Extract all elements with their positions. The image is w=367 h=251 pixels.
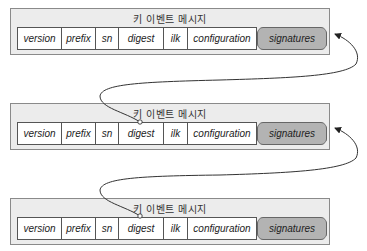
field-ilk: ilk	[164, 27, 188, 50]
field-digest: digest	[119, 122, 164, 145]
field-version: version	[17, 27, 62, 50]
field-version: version	[17, 122, 62, 145]
message-title: 키 이벤트 메시지	[11, 201, 329, 216]
field-ilk: ilk	[164, 217, 188, 240]
field-ilk: ilk	[164, 122, 188, 145]
key-event-message-3: 키 이벤트 메시지 version prefix sn digest ilk c…	[10, 198, 330, 245]
message-title: 키 이벤트 메시지	[11, 106, 329, 121]
key-event-message-2: 키 이벤트 메시지 version prefix sn digest ilk c…	[10, 103, 330, 150]
field-prefix: prefix	[62, 122, 96, 145]
field-configuration: configuration	[188, 27, 257, 50]
field-digest: digest	[119, 217, 164, 240]
field-prefix: prefix	[62, 217, 96, 240]
field-sn: sn	[96, 122, 119, 145]
field-signatures: signatures	[257, 217, 327, 240]
field-prefix: prefix	[62, 27, 96, 50]
field-configuration: configuration	[188, 217, 257, 240]
message-fields: version prefix sn digest ilk configurati…	[17, 217, 257, 240]
field-sn: sn	[96, 27, 119, 50]
field-signatures: signatures	[257, 27, 327, 50]
field-digest: digest	[119, 27, 164, 50]
message-title: 키 이벤트 메시지	[11, 11, 329, 26]
message-fields: version prefix sn digest ilk configurati…	[17, 122, 257, 145]
message-fields: version prefix sn digest ilk configurati…	[17, 27, 257, 50]
field-signatures: signatures	[257, 122, 327, 145]
field-configuration: configuration	[188, 122, 257, 145]
field-sn: sn	[96, 217, 119, 240]
field-version: version	[17, 217, 62, 240]
key-event-message-1: 키 이벤트 메시지 version prefix sn digest ilk c…	[10, 8, 330, 55]
